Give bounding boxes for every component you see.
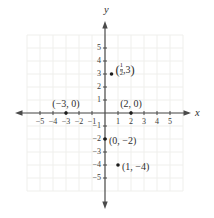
coordinate-plane: −5−4−3−2−11234554321−1−2−3−4−5xy(12,3)(−… bbox=[0, 0, 214, 218]
x-axis-label: x bbox=[195, 107, 200, 118]
y-tick-label: 4 bbox=[97, 57, 101, 65]
plot-canvas bbox=[0, 0, 214, 218]
x-tick-label: −2 bbox=[75, 118, 84, 126]
y-tick-label: −4 bbox=[92, 161, 101, 169]
y-tick-label: −3 bbox=[92, 148, 101, 156]
x-tick-label: 1 bbox=[116, 118, 120, 126]
data-point bbox=[103, 137, 107, 141]
y-tick-label: −5 bbox=[92, 174, 101, 182]
x-tick-label: 5 bbox=[168, 118, 172, 126]
x-tick-label: −3 bbox=[62, 118, 71, 126]
y-tick-label: −2 bbox=[92, 135, 101, 143]
x-tick-label: 2 bbox=[129, 118, 133, 126]
y-tick-label: −1 bbox=[92, 122, 101, 130]
x-tick-label: 4 bbox=[155, 118, 159, 126]
point-label: (2, 0) bbox=[120, 98, 142, 109]
point-label: (12,3) bbox=[116, 62, 135, 77]
point-label: (1, −4) bbox=[122, 162, 149, 173]
y-tick-label: 1 bbox=[97, 96, 101, 104]
x-axis-arrow-left-icon bbox=[15, 110, 23, 115]
x-tick-label: −4 bbox=[49, 118, 58, 126]
point-label: (−3, 0) bbox=[52, 98, 79, 109]
y-axis-arrow-up-icon bbox=[102, 21, 107, 29]
y-tick-label: 5 bbox=[97, 44, 101, 52]
y-tick-label: 2 bbox=[97, 83, 101, 91]
data-point bbox=[110, 72, 114, 76]
x-tick-label: −5 bbox=[36, 118, 45, 126]
data-point bbox=[64, 111, 68, 115]
y-axis-arrow-down-icon bbox=[102, 202, 107, 210]
data-point bbox=[116, 163, 120, 167]
y-axis-label: y bbox=[104, 5, 109, 16]
x-tick-label: 3 bbox=[142, 118, 146, 126]
data-point bbox=[129, 111, 133, 115]
axes bbox=[15, 21, 191, 209]
y-tick-label: 3 bbox=[97, 70, 101, 78]
point-label: (0, −2) bbox=[109, 136, 136, 147]
x-axis-arrow-right-icon bbox=[184, 110, 192, 115]
